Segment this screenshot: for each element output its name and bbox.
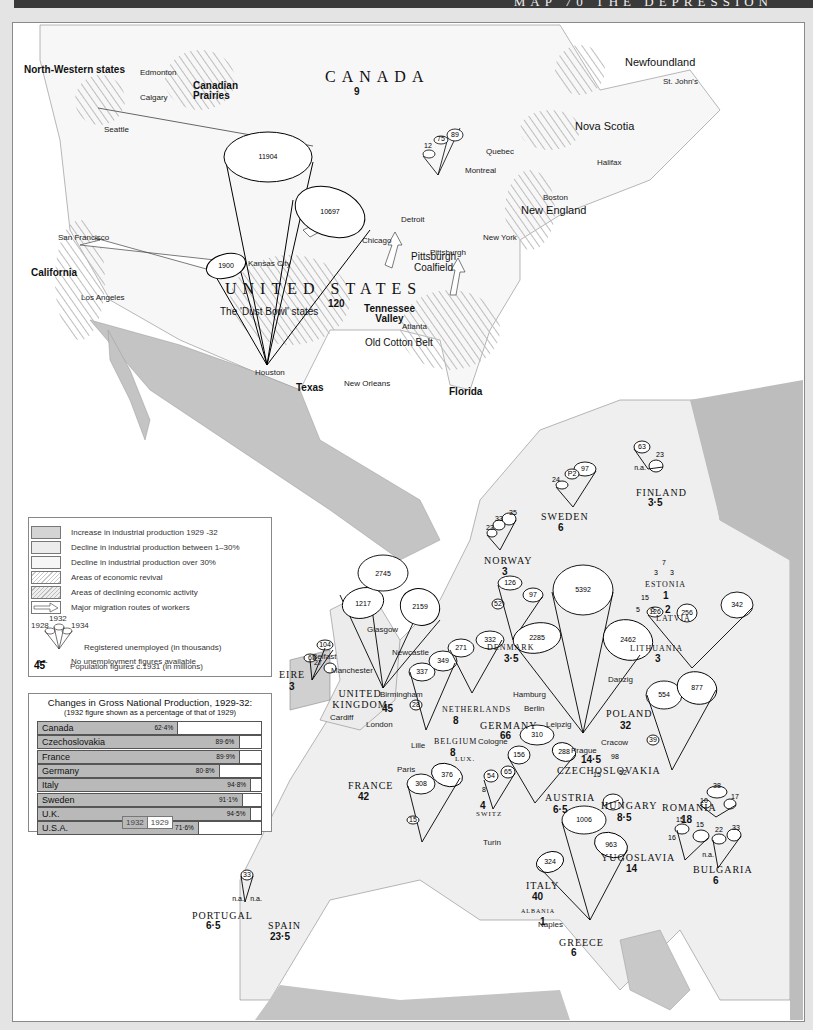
- city-paris: Paris: [397, 765, 415, 774]
- pop-sweden: 6: [558, 522, 564, 533]
- svg-text:5: 5: [651, 606, 655, 613]
- region-nova-scotia: Nova Scotia: [575, 120, 634, 132]
- region-florida: Florida: [449, 386, 482, 397]
- pop-italy: 40: [532, 891, 543, 902]
- country-label-latvia: LATVIA: [656, 614, 691, 623]
- svg-text:310: 310: [531, 731, 543, 738]
- albania-greece-land: [620, 930, 690, 1010]
- pop-finland: 3·5: [648, 497, 662, 508]
- svg-text:39: 39: [649, 736, 657, 743]
- svg-text:271: 271: [455, 644, 467, 651]
- pop-canada: 9: [354, 86, 360, 97]
- city-pittsburgh: Pittsburgh: [430, 248, 466, 257]
- svg-text:23: 23: [656, 451, 664, 458]
- pop-estonia: 1: [663, 590, 669, 601]
- country-label-austria: AUSTRIA: [545, 792, 595, 803]
- svg-text:17: 17: [731, 793, 739, 800]
- country-label-yugoslavia: YUGOSLAVIA: [601, 852, 675, 863]
- city-london: London: [366, 720, 393, 729]
- hatch-declining-icon: [31, 586, 61, 599]
- city-prague: Prague: [571, 746, 597, 755]
- hatch-revival-icon: [31, 571, 61, 584]
- city-cardiff: Cardiff: [330, 713, 353, 722]
- country-label-portugal: PORTUGAL: [192, 910, 253, 921]
- svg-text:10697: 10697: [320, 208, 340, 215]
- country-label-albania: ALBANIA: [521, 908, 555, 914]
- pop-romania: 18: [681, 814, 692, 825]
- gnp-chart: Changes in Gross National Production, 19…: [28, 693, 272, 832]
- pop-denmark: 3·5: [504, 653, 518, 664]
- gnp-chart-subtitle: (1932 figure shown as a percentage of th…: [29, 708, 271, 717]
- country-label-netherlands: NETHERLANDS: [442, 705, 511, 714]
- svg-text:1217: 1217: [355, 600, 371, 607]
- city-st-johns: St. John's: [663, 77, 698, 86]
- svg-text:2159: 2159: [412, 603, 428, 610]
- svg-text:1932: 1932: [49, 615, 67, 623]
- cone-key-icon: 1928 1932 1934: [29, 615, 89, 655]
- gnp-bar-value: 62·4%: [154, 724, 173, 731]
- svg-text:376: 376: [441, 771, 453, 778]
- city-los-angeles: Los Angeles: [81, 293, 125, 302]
- gnp-bar-value: 89·9%: [216, 753, 235, 760]
- svg-text:35: 35: [509, 509, 517, 516]
- svg-text:15: 15: [409, 816, 417, 823]
- svg-text:33: 33: [732, 824, 740, 831]
- pop-france: 42: [358, 791, 369, 802]
- city-danzig: Danzig: [608, 675, 633, 684]
- city-belfast: Belfast: [312, 652, 336, 661]
- svg-text:963: 963: [605, 841, 617, 848]
- city-lille: Lille: [411, 741, 425, 750]
- city-berlin: Berlin: [524, 704, 544, 713]
- pop-poland: 32: [620, 720, 631, 731]
- pop-bulgaria: 6: [713, 875, 719, 886]
- gnp-bar-row: Czechoslovakia89·6%: [37, 735, 262, 749]
- country-label-italy: ITALY: [526, 880, 559, 891]
- country-label-estonia: ESTONIA: [645, 580, 686, 589]
- legend-1929: 1929: [147, 817, 172, 828]
- svg-text:1934: 1934: [71, 621, 89, 630]
- svg-text:5: 5: [636, 606, 640, 613]
- city-newcastle: Newcastle: [392, 648, 429, 657]
- svg-text:156: 156: [513, 751, 525, 758]
- svg-text:P2: P2: [568, 470, 577, 477]
- svg-text:65: 65: [504, 768, 512, 775]
- city-birmingham: Birmingham: [380, 690, 423, 699]
- svg-text:11904: 11904: [259, 153, 278, 160]
- country-label-france: FRANCE: [348, 780, 393, 791]
- svg-text:104: 104: [319, 641, 331, 648]
- gnp-bar-label: U.S.A.: [42, 823, 68, 833]
- country-label-eire: EIRE: [279, 669, 305, 680]
- city-cracow: Cracow: [601, 738, 628, 747]
- svg-text:n.a.: n.a.: [250, 895, 262, 902]
- pop-uk: 45: [382, 703, 393, 714]
- gnp-bar-label: France: [42, 752, 70, 762]
- country-label-hungary: HUNGARY: [601, 800, 657, 811]
- pop-hungary: 8·5: [617, 812, 631, 823]
- gnp-bar-label: Germany: [42, 766, 79, 776]
- svg-text:97: 97: [581, 465, 589, 472]
- city-chicago: Chicago: [362, 236, 391, 245]
- city-detroit: Detroit: [401, 215, 425, 224]
- legend-pop-key-visible: 45: [34, 660, 45, 671]
- city-seattle: Seattle: [104, 125, 129, 134]
- legend-1932: 1932: [123, 817, 147, 828]
- svg-text:1006: 1006: [576, 816, 592, 823]
- pop-lithuania: 3: [655, 653, 661, 664]
- svg-text:89: 89: [451, 131, 459, 138]
- svg-text:337: 337: [416, 668, 428, 675]
- city-kansas-city: Kansas City: [248, 259, 291, 268]
- legend-item-declining: Areas of declining economic activity: [31, 585, 198, 599]
- svg-text:3: 3: [670, 569, 674, 576]
- legend-item-increase: Increase in industrial production 1929 -…: [31, 525, 218, 539]
- pop-austria: 6·5: [553, 804, 567, 815]
- gnp-bar-value: 94·8%: [227, 781, 246, 788]
- pop-spain: 23·5: [270, 931, 290, 942]
- svg-text:8: 8: [482, 786, 486, 793]
- svg-text:24: 24: [552, 476, 560, 483]
- swatch-decline-1-30: [31, 541, 61, 554]
- city-turin: Turin: [483, 838, 501, 847]
- gnp-bar-row: France89·9%: [37, 750, 262, 764]
- city-new-york: New York: [483, 233, 517, 242]
- svg-text:5392: 5392: [575, 586, 591, 593]
- city-san-francisco: San Francisco: [58, 233, 109, 242]
